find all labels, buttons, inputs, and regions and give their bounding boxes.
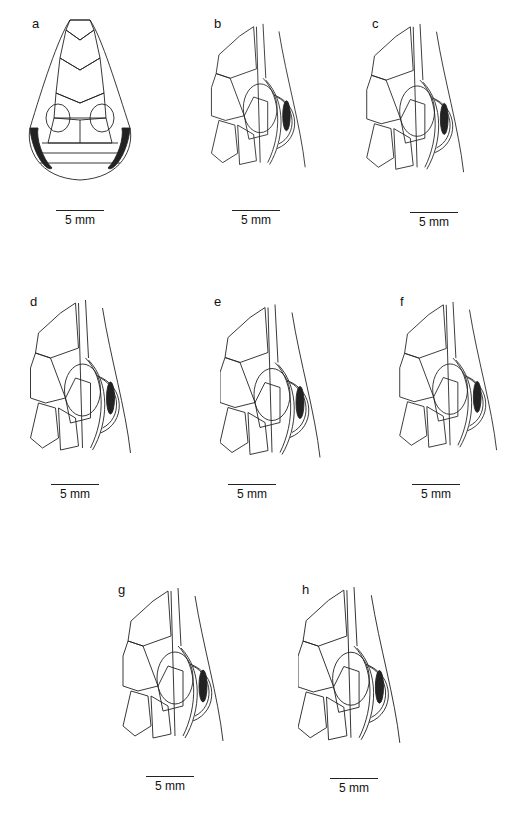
scale-bar-a: 5 mm bbox=[50, 210, 110, 227]
scale-bar-e: 5 mm bbox=[222, 484, 282, 501]
panel-h: h 5 mm bbox=[280, 540, 460, 813]
lateral-head-drawing-b bbox=[208, 22, 318, 172]
lateral-head-drawing-g bbox=[122, 586, 234, 746]
scale-bar-d: 5 mm bbox=[45, 484, 105, 501]
scale-bar-h: 5 mm bbox=[324, 778, 384, 795]
panel-c: c 5 mm bbox=[360, 0, 513, 240]
panel-g: g 5 mm bbox=[100, 540, 270, 813]
panel-d: d 5 mm bbox=[0, 270, 170, 510]
lateral-head-drawing-f bbox=[398, 300, 508, 455]
panel-b: b 5 mm bbox=[180, 0, 350, 240]
lateral-head-drawing-c bbox=[365, 22, 475, 177]
scale-bar-g: 5 mm bbox=[140, 776, 200, 793]
dorsal-head-drawing-a bbox=[22, 18, 137, 183]
lateral-head-drawing-e bbox=[220, 300, 330, 465]
lateral-head-drawing-h bbox=[298, 584, 410, 749]
scale-bar-c: 5 mm bbox=[404, 212, 464, 229]
scale-bar-b: 5 mm bbox=[226, 210, 286, 227]
panel-a: a 5 mm bbox=[0, 0, 170, 240]
panel-e: e 5 mm bbox=[180, 270, 350, 510]
lateral-head-drawing-d bbox=[28, 298, 143, 458]
panel-f: f 5 mm bbox=[360, 270, 513, 510]
scale-bar-f: 5 mm bbox=[406, 484, 466, 501]
